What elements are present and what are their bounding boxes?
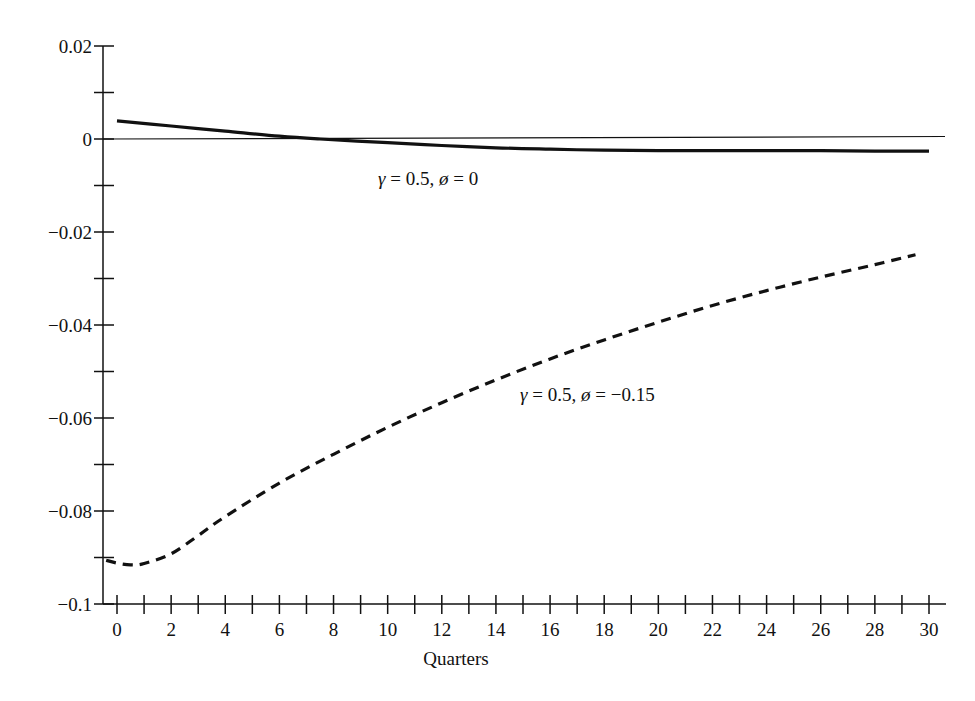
x-tick-label: 8 (329, 619, 339, 640)
line-chart: 0.020−0.02−0.04−0.06−0.08−0.1 0246810121… (0, 0, 975, 701)
y-tick-label: 0 (83, 129, 93, 150)
x-axis: 024681012141618202224262830 (103, 595, 946, 640)
annotation-phi-0: γ = 0.5, ø = 0 (378, 168, 478, 189)
x-tick-label: 30 (920, 619, 939, 640)
x-tick-label: 16 (541, 619, 560, 640)
zero-reference-line (103, 137, 945, 140)
x-tick-label: 0 (112, 619, 122, 640)
x-tick-label: 14 (486, 619, 506, 640)
x-tick-label: 20 (649, 619, 668, 640)
x-tick-label: 26 (811, 619, 830, 640)
x-tick-label: 12 (432, 619, 451, 640)
y-tick-label: 0.02 (59, 36, 92, 57)
y-tick-label: −0.06 (48, 408, 92, 429)
x-tick-label: 2 (166, 619, 176, 640)
x-tick-label: 22 (703, 619, 722, 640)
x-tick-label: 4 (221, 619, 231, 640)
x-tick-label: 18 (595, 619, 614, 640)
y-tick-label: −0.04 (48, 315, 92, 336)
annotations: γ = 0.5, ø = 0γ = 0.5, ø = −0.15 (378, 168, 655, 405)
y-axis: 0.020−0.02−0.04−0.06−0.08−0.1 (48, 36, 114, 615)
x-tick-label: 24 (757, 619, 777, 640)
x-tick-label: 28 (865, 619, 884, 640)
series-line-phi-0 (117, 121, 929, 151)
y-tick-label: −0.08 (48, 501, 92, 522)
x-tick-label: 10 (378, 619, 397, 640)
y-tick-label: −0.1 (58, 594, 92, 615)
series-line-phi-minus-0.15 (106, 255, 915, 565)
annotation-phi-minus-0.15: γ = 0.5, ø = −0.15 (520, 384, 655, 405)
series-layer (106, 121, 929, 565)
x-axis-title: Quarters (423, 648, 488, 669)
x-tick-label: 6 (275, 619, 285, 640)
y-tick-label: −0.02 (48, 222, 92, 243)
